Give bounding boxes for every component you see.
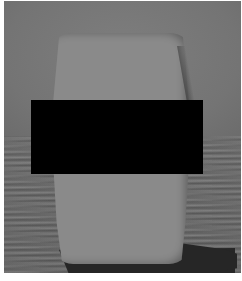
redaction-box [31, 100, 203, 174]
image-frame [4, 1, 241, 273]
